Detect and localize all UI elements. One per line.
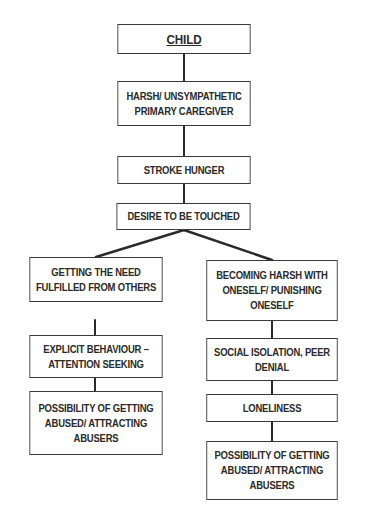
node-loneliness: LONELINESS xyxy=(206,394,337,422)
node-harsh-with-oneself: BECOMING HARSH WITH ONESELF/ PUNISHING O… xyxy=(206,260,337,321)
node-harsh-caregiver: HARSH/ UNSYMPATHETIC PRIMARY CAREGIVER xyxy=(117,81,250,126)
node-child: CHILD xyxy=(117,24,250,54)
node-social-isolation: SOCIAL ISOLATION, PEER DENIAL xyxy=(206,338,337,381)
node-desire-to-be-touched: DESIRE TO BE TOUCHED xyxy=(116,203,250,230)
node-stroke-hunger: STROKE HUNGER xyxy=(117,156,250,184)
node-right-possibility-abuse: POSSIBILITY OF GETTING ABUSED/ ATTRACTIN… xyxy=(206,441,337,500)
connector-desire-left xyxy=(96,230,184,257)
connector-desire-right xyxy=(184,230,272,260)
node-getting-need-fulfilled: GETTING THE NEED FULFILLED FROM OTHERS xyxy=(29,257,162,302)
node-attention-seeking: EXPLICIT BEHAVIOUR – ATTENTION SEEKING xyxy=(29,335,162,378)
node-left-possibility-abuse: POSSIBILITY OF GETTING ABUSED/ ATTRACTIN… xyxy=(29,391,162,455)
flowchart: CHILD HARSH/ UNSYMPATHETIC PRIMARY CAREG… xyxy=(0,0,367,526)
